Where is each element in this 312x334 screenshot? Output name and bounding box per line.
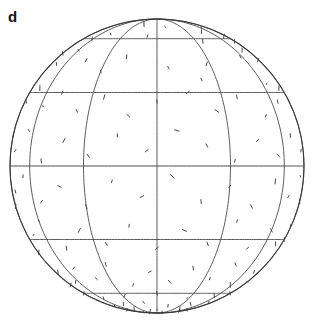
lineament-mark bbox=[175, 130, 180, 131]
lineament-mark bbox=[58, 186, 61, 188]
lineament-mark bbox=[170, 175, 174, 178]
lineament-mark bbox=[73, 267, 75, 269]
lineament-mark bbox=[111, 180, 112, 183]
lineament-mark bbox=[143, 301, 145, 303]
lineament-mark bbox=[168, 280, 170, 283]
lineament-mark bbox=[207, 242, 208, 246]
lineament-mark bbox=[265, 114, 266, 117]
lineament-mark bbox=[87, 154, 89, 157]
lineament-mark bbox=[277, 155, 279, 158]
lineament-mark bbox=[235, 263, 236, 266]
lineament-mark bbox=[140, 196, 144, 198]
lineament-mark bbox=[95, 278, 97, 280]
lineament-mark bbox=[105, 242, 107, 245]
lineament-mark bbox=[254, 270, 255, 273]
lineament-mark bbox=[41, 200, 43, 203]
lineament-mark bbox=[110, 33, 111, 35]
lineament-mark bbox=[251, 205, 253, 208]
figure-panel-d: d bbox=[0, 0, 312, 334]
lineament-mark bbox=[147, 35, 148, 37]
lineament-mark bbox=[168, 66, 169, 68]
lineament-mark bbox=[201, 78, 202, 81]
lineament-mark bbox=[206, 62, 207, 66]
lineament-mark bbox=[105, 262, 106, 266]
graticule-layer bbox=[10, 19, 304, 313]
lineament-mark bbox=[124, 294, 125, 297]
lineament-mark bbox=[127, 114, 130, 117]
lineament-mark bbox=[28, 130, 29, 132]
lineament-mark bbox=[237, 220, 238, 223]
lineament-mark bbox=[235, 159, 236, 162]
lineament-mark bbox=[133, 284, 134, 287]
lineament-mark bbox=[63, 138, 65, 142]
lineament-mark bbox=[33, 234, 34, 235]
lineament-mark bbox=[300, 176, 301, 178]
lineament-mark bbox=[256, 139, 258, 141]
lineament-mark bbox=[206, 144, 208, 147]
lineament-mark bbox=[85, 59, 87, 62]
lineament-mark bbox=[145, 149, 148, 152]
lineament-mark bbox=[15, 190, 16, 193]
lineament-mark bbox=[215, 110, 219, 113]
lineament-mark bbox=[42, 106, 43, 107]
lineament-mark bbox=[187, 297, 188, 298]
lineament-mark bbox=[209, 277, 210, 279]
lineament-mark bbox=[288, 195, 289, 197]
lineament-mark bbox=[247, 247, 249, 249]
lineament-mark bbox=[277, 100, 278, 103]
lineament-mark bbox=[165, 27, 166, 28]
lineament-mark bbox=[104, 95, 105, 100]
lineament-mark bbox=[149, 271, 152, 272]
lineament-mark bbox=[237, 95, 238, 99]
lineament-mark bbox=[275, 179, 276, 184]
lineament-mark bbox=[266, 83, 267, 85]
globe-map bbox=[0, 0, 312, 334]
lineament-mark bbox=[78, 228, 80, 232]
lineament-mark bbox=[76, 110, 77, 113]
globe-group bbox=[10, 19, 304, 314]
lineament-mark bbox=[182, 230, 186, 232]
lineament-mark bbox=[190, 302, 191, 306]
lineament-mark bbox=[58, 270, 59, 273]
lineament-mark bbox=[15, 150, 16, 152]
